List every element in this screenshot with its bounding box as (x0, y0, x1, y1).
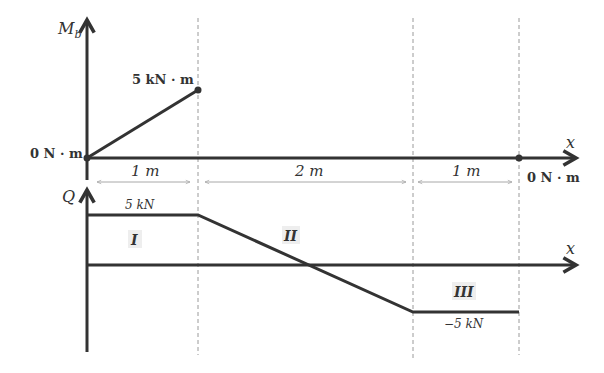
beam-diagram: Mb x 5 kN · m 0 N · m 0 N · m 1 m 2 m 1 … (0, 0, 604, 373)
dimension-label-2: 2 m (294, 162, 324, 180)
moment-diagram: Mb x 5 kN · m 0 N · m 0 N · m (30, 19, 580, 185)
dimension-label-3: 1 m (452, 162, 481, 180)
region-label-2: II (283, 228, 298, 244)
shear-x-axis-label: x (566, 239, 575, 258)
moment-start-label: 0 N · m (30, 146, 83, 161)
moment-x-axis-label: x (566, 133, 575, 152)
shear-axis-label: Q (62, 187, 75, 206)
moment-curve (87, 90, 198, 158)
dimension-label-1: 1 m (131, 162, 160, 180)
moment-end-point (516, 155, 523, 162)
region-label-3: III (453, 284, 474, 300)
moment-end-label: 0 N · m (527, 170, 580, 185)
section-dividers (198, 18, 519, 358)
shear-top-value-label: 5 kN (125, 198, 155, 212)
shear-bottom-value-label: −5 kN (444, 317, 484, 331)
shear-diagram: Q x 5 kN −5 kN I II III (62, 187, 576, 352)
moment-peak-label: 5 kN · m (132, 72, 194, 87)
moment-start-point (84, 155, 91, 162)
moment-peak-point (195, 87, 202, 94)
dimensions: 1 m 2 m 1 m (97, 162, 512, 182)
region-label-1: I (130, 232, 138, 248)
moment-axis-label: Mb (57, 19, 81, 41)
